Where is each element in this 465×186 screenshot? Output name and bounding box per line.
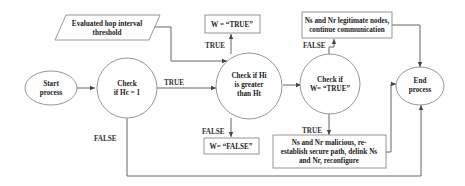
check-w-label: W= “TRUE” (310, 85, 351, 93)
malicious-label: Ns and Nr malicious, re- (292, 139, 367, 147)
arrow-w-to-legit (329, 39, 334, 54)
flowchart: Start process Check if Hc = 1 Evaluated … (0, 0, 465, 186)
check-hc-node: Check if Hc = 1 (97, 58, 157, 118)
start-label: process (40, 89, 63, 97)
end-label: End (414, 77, 427, 85)
check-hi-node: Check if Hi is greater than Ht (216, 53, 282, 119)
edge-label-w-true: TRUE (302, 127, 322, 135)
w-true-node: W = “TRUE” (205, 15, 260, 33)
edge-label-hi-true: TRUE (205, 42, 225, 50)
end-label: process (409, 86, 432, 94)
check-hi-label: than Ht (237, 90, 261, 98)
edge-label-w-false: FALSE (303, 42, 326, 50)
edge-label-hi-false: FALSE (202, 128, 225, 136)
check-w-node: Check if W= “TRUE” (300, 54, 360, 114)
w-true-label: W = “TRUE” (211, 21, 253, 29)
start-label: Start (43, 80, 59, 88)
threshold-node: Evaluated hop interval threshold (55, 15, 160, 40)
malicious-node: Ns and Nr malicious, re- establish secur… (273, 135, 386, 168)
threshold-label: Evaluated hop interval (72, 20, 142, 28)
check-hi-label: is greater (235, 81, 265, 89)
w-false-node: W= “FALSE” (204, 138, 259, 154)
malicious-label: and Nr, reconfigure (299, 157, 359, 165)
check-hc-label: Check (117, 80, 137, 88)
legit-label: Ns and Nr legitimate nodes, (305, 17, 390, 25)
arrow-legit-to-end (392, 25, 420, 67)
check-hc-label: if Hc = 1 (114, 89, 141, 97)
start-node: Start process (25, 71, 77, 105)
legit-label: continue communication (309, 26, 385, 34)
end-node: End process (396, 67, 444, 105)
edge-label-hc-false: FALSE (94, 135, 117, 143)
threshold-label: threshold (92, 29, 121, 37)
legit-node: Ns and Nr legitimate nodes, continue com… (302, 12, 392, 38)
malicious-label: establish secure path, delink Ns (281, 148, 378, 156)
arrow-malicious-to-end (386, 84, 396, 152)
check-hi-label: Check if Hi (231, 72, 266, 80)
w-false-label: W= “FALSE” (210, 143, 253, 151)
check-w-label: Check if (317, 76, 343, 84)
edge-label-hc-true: TRUE (164, 79, 184, 87)
